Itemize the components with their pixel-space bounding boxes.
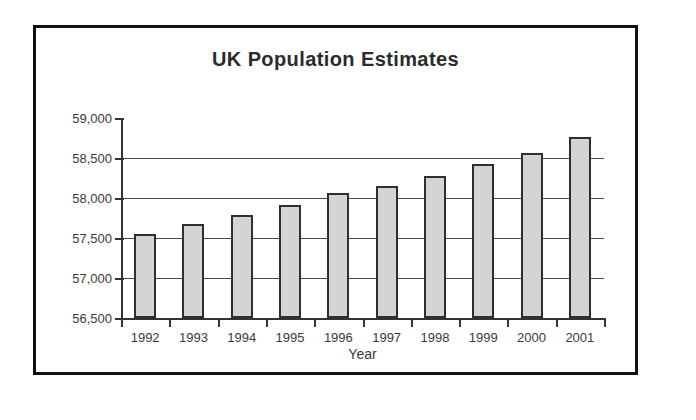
chart-title: UK Population Estimates (36, 48, 635, 71)
x-axis-title: Year (121, 346, 604, 362)
x-axis-label: 1992 (131, 330, 160, 345)
x-axis-tick (604, 318, 606, 327)
x-axis-tick (121, 318, 123, 327)
bar (569, 137, 591, 318)
x-axis-tick (459, 318, 461, 327)
x-axis-tick (363, 318, 365, 327)
plot-area: 59,00058,50058,00057,50057,00056,500 199… (121, 118, 604, 318)
y-axis-label: 57,000 (72, 271, 112, 286)
bar-series (121, 118, 604, 318)
bar (134, 234, 156, 318)
y-axis-label: 58,500 (72, 151, 112, 166)
x-axis-tick (218, 318, 220, 327)
bar (279, 205, 301, 318)
x-axis-label: 1999 (469, 330, 498, 345)
x-axis-label: 1993 (179, 330, 208, 345)
bar (231, 215, 253, 318)
y-axis-label: 58,000 (72, 191, 112, 206)
x-axis-tick (169, 318, 171, 327)
bar (182, 224, 204, 318)
bar (327, 193, 349, 318)
bar (472, 164, 494, 318)
x-axis-label: 2000 (517, 330, 546, 345)
x-axis-label: 1994 (227, 330, 256, 345)
y-axis-label: 59,000 (72, 111, 112, 126)
bar (521, 153, 543, 318)
chart-frame: UK Population Estimates 59,00058,50058,0… (33, 25, 638, 375)
x-axis-tick (507, 318, 509, 327)
y-axis-label: 57,500 (72, 231, 112, 246)
x-axis-tick (314, 318, 316, 327)
x-axis-tick (411, 318, 413, 327)
y-axis-label: 56,500 (72, 311, 112, 326)
x-axis-label: 1996 (324, 330, 353, 345)
bar (424, 176, 446, 318)
x-axis-tick (556, 318, 558, 327)
x-axis-label: 1997 (372, 330, 401, 345)
x-axis-tick (266, 318, 268, 327)
bar (376, 186, 398, 318)
x-axis-label: 1995 (276, 330, 305, 345)
x-axis-label: 2001 (565, 330, 594, 345)
x-axis-label: 1998 (420, 330, 449, 345)
